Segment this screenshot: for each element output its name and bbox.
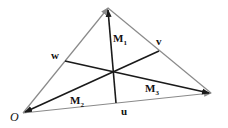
label-v: v xyxy=(156,36,162,47)
triangle-diagram xyxy=(0,0,228,128)
label-m3: M3 xyxy=(145,83,159,97)
label-m2: M2 xyxy=(70,95,84,109)
side-u xyxy=(23,93,211,113)
median-m1 xyxy=(108,10,116,103)
side-v xyxy=(108,8,211,93)
median-m3 xyxy=(65,61,209,93)
median-m2 xyxy=(25,51,159,112)
label-u: u xyxy=(121,106,127,117)
label-o: O xyxy=(10,111,19,123)
label-m1: M1 xyxy=(113,33,127,47)
label-w: w xyxy=(51,50,59,61)
